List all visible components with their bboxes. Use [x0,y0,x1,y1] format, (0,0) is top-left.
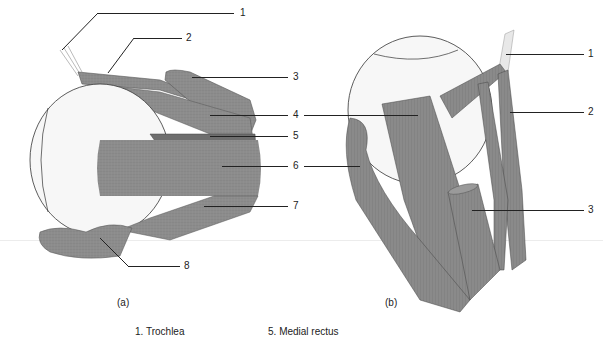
leader-b4 [304,115,418,116]
panel-b-illustration [346,30,526,312]
leader-a8 [128,266,180,267]
leader-a7 [204,206,288,207]
callout-b-2: 2 [588,107,594,117]
callout-a-7: 7 [293,201,299,211]
leader-a8-diag [98,236,130,268]
panel-a-caption: (a) [117,297,129,308]
leader-b1 [506,54,584,55]
leader-a2 [134,38,182,39]
leader-b3 [472,210,584,211]
callout-a-6: 6 [293,161,299,171]
leader-a6 [222,166,288,167]
leader-a2-diag [106,37,136,75]
callout-b-1: 1 [588,49,594,59]
leader-b2 [510,112,584,113]
callout-a-5: 5 [293,131,299,141]
callout-a-8: 8 [184,261,190,271]
legend-item: 5. Medial rectus [268,326,339,337]
callout-b-3: 3 [588,205,594,215]
eye-muscles-diagram: 1 2 3 4 5 6 7 8 1 2 3 (a) (b) 1. Trochle… [0,0,603,339]
legend-name: Medial rectus [279,326,338,337]
legend-name: Trochlea [146,326,185,337]
leader-a1-diag [60,12,100,52]
callout-a-1: 1 [240,8,246,18]
callout-a-3: 3 [293,72,299,82]
leader-a3 [192,77,288,78]
leader-b6 [304,166,360,167]
callout-a-2: 2 [186,33,192,43]
leader-a1 [98,13,234,14]
legend-item: 1. Trochlea [135,326,185,337]
panel-b-caption: (b) [385,297,397,308]
legend-number: 5. [268,326,276,337]
callout-a-4: 4 [293,110,299,120]
leader-a4 [210,115,288,116]
leader-a5 [210,136,288,137]
legend-number: 1. [135,326,143,337]
